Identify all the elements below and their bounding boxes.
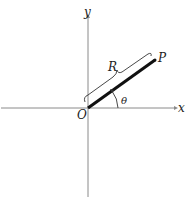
- point-p-marker: [154, 59, 157, 62]
- y-axis-label: y: [83, 5, 91, 19]
- polar-diagram: x y O P R θ: [0, 0, 193, 209]
- point-p-label: P: [157, 51, 167, 65]
- origin-label: O: [77, 108, 87, 122]
- angle-arc: [112, 91, 118, 108]
- radius-brace: [84, 53, 151, 102]
- angle-label: θ: [121, 95, 127, 106]
- radius-label: R: [107, 60, 117, 74]
- x-axis-label: x: [178, 101, 185, 115]
